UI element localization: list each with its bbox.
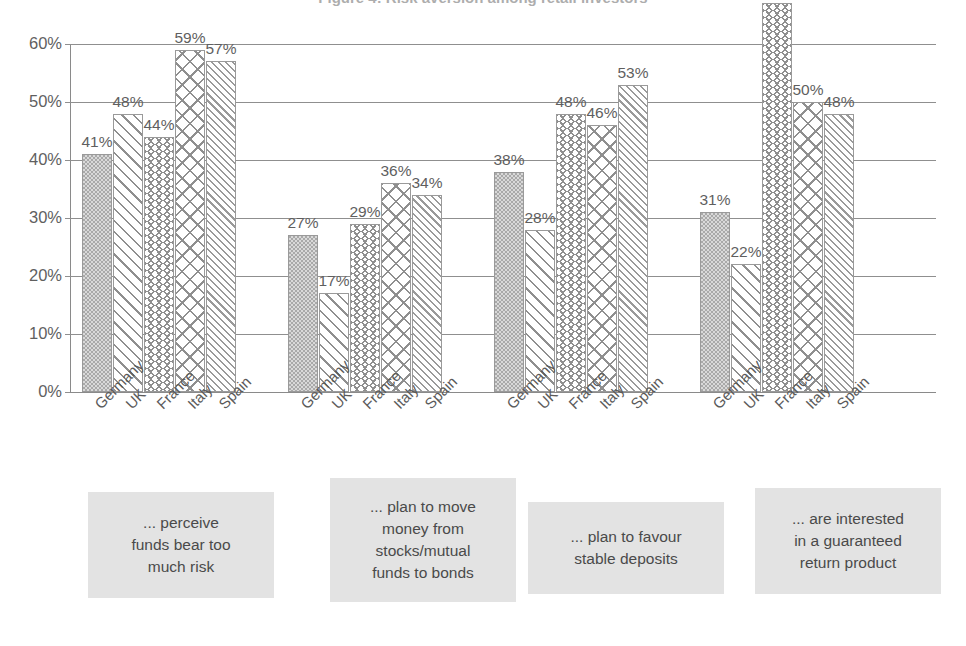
caption-text: ... perceivefunds bear toomuch risk (131, 512, 230, 578)
chart-title: Figure 4: Risk aversion among retail inv… (0, 0, 966, 6)
bar-value-label: 34% (399, 174, 455, 192)
bar-france-group1[interactable] (144, 137, 174, 392)
bar-italy-group1[interactable] (175, 50, 205, 392)
caption-line: stocks/mutual (370, 540, 476, 562)
bar-value-label: 27% (275, 214, 331, 232)
caption-text: ... plan to favourstable deposits (570, 526, 681, 570)
bar-value-label: 48% (100, 93, 156, 111)
bar-value-label: 38% (481, 151, 537, 169)
bar-spain-group1[interactable] (206, 61, 236, 392)
bar-france-group2[interactable] (350, 224, 380, 392)
bar-germany-group3[interactable] (494, 172, 524, 392)
caption-line: in a guaranteed (792, 530, 904, 552)
bar-spain-group4[interactable] (824, 114, 854, 392)
bar-value-label: 57% (193, 40, 249, 58)
y-axis-tick-label: 30% (2, 208, 62, 227)
y-axis-tick-label: 0% (2, 382, 62, 401)
y-tick-mark (65, 392, 70, 393)
y-axis-tick-label: 40% (2, 150, 62, 169)
y-axis-labels: 0%10%20%30%40%50%60% (0, 44, 62, 392)
caption-line: ... plan to favour (570, 526, 681, 548)
y-tick-mark (65, 44, 70, 45)
caption-line: ... perceive (131, 512, 230, 534)
y-tick-mark (65, 160, 70, 161)
caption-line: much risk (131, 556, 230, 578)
y-tick-mark (65, 102, 70, 103)
bar-italy-group2[interactable] (381, 183, 411, 392)
bar-value-label: 53% (605, 64, 661, 82)
caption-line: ... are interested (792, 508, 904, 530)
bar-france-group3[interactable] (556, 114, 586, 392)
bar-germany-group2[interactable] (288, 235, 318, 392)
caption-line: stable deposits (570, 548, 681, 570)
bar-italy-group3[interactable] (587, 125, 617, 392)
caption-line: funds bear too (131, 534, 230, 556)
caption-text: ... are interestedin a guaranteedreturn … (792, 508, 904, 574)
bar-germany-group1[interactable] (82, 154, 112, 392)
bar-uk-group1[interactable] (113, 114, 143, 392)
y-axis-tick-label: 20% (2, 266, 62, 285)
bar-spain-group3[interactable] (618, 85, 648, 392)
bar-italy-group4[interactable] (793, 102, 823, 392)
caption-box-group1: ... perceivefunds bear toomuch risk (88, 492, 274, 598)
y-axis-tick-label: 50% (2, 92, 62, 111)
bar-france-group4[interactable] (762, 3, 792, 392)
y-axis-tick-label: 10% (2, 324, 62, 343)
y-axis-tick-label: 60% (2, 34, 62, 53)
caption-line: return product (792, 552, 904, 574)
caption-line: funds to bonds (370, 562, 476, 584)
plot-area: 41%48%44%59%57%27%17%29%36%34%38%28%48%4… (70, 44, 936, 392)
caption-box-group3: ... plan to favourstable deposits (528, 502, 724, 594)
bar-germany-group4[interactable] (700, 212, 730, 392)
caption-box-group2: ... plan to movemoney fromstocks/mutualf… (330, 478, 516, 602)
y-tick-mark (65, 218, 70, 219)
caption-line: money from (370, 518, 476, 540)
caption-line: ... plan to move (370, 496, 476, 518)
y-tick-mark (65, 276, 70, 277)
caption-text: ... plan to movemoney fromstocks/mutualf… (370, 496, 476, 584)
bar-value-label: 31% (687, 191, 743, 209)
bar-spain-group2[interactable] (412, 195, 442, 392)
y-tick-mark (65, 334, 70, 335)
bar-value-label: 48% (811, 93, 867, 111)
caption-box-group4: ... are interestedin a guaranteedreturn … (755, 488, 941, 594)
